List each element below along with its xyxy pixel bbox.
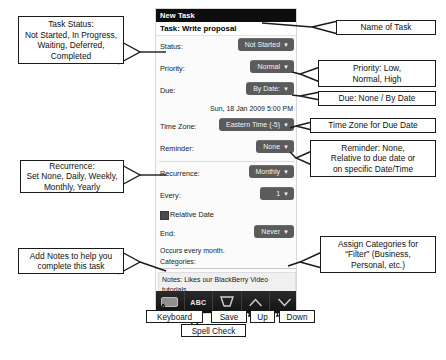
label-save-text: Save bbox=[220, 313, 239, 322]
screenshot-canvas: Task Status: Not Started, In Progress, W… bbox=[0, 0, 446, 360]
label-up-text: Up bbox=[257, 313, 267, 322]
label-down: Down bbox=[279, 310, 315, 323]
toolbar-connectors bbox=[0, 0, 446, 360]
label-keyboard-text: Keyboard bbox=[157, 313, 192, 322]
label-save: Save bbox=[211, 310, 247, 323]
label-keyboard: Keyboard bbox=[146, 310, 203, 323]
label-spell-check-text: Spell Check bbox=[192, 327, 236, 336]
label-spell-check: Spell Check bbox=[181, 324, 246, 337]
label-down-text: Down bbox=[287, 313, 308, 322]
label-up: Up bbox=[250, 310, 275, 323]
